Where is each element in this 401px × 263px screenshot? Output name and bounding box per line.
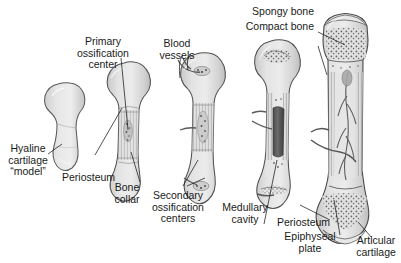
label-primary-ossification-center: Primary ossification center — [69, 36, 137, 71]
stage-5-mature-bone — [311, 14, 369, 245]
medullary-cavity-fill — [273, 107, 284, 157]
label-spongy-bone: Spongy bone — [228, 6, 314, 18]
spongy-bone-stage4 — [263, 49, 291, 63]
spongy-bone-stage5 — [326, 28, 366, 61]
label-compact-bone: Compact bone — [216, 21, 314, 33]
stage-4-medullary-cavity — [252, 40, 300, 209]
secondary-center-proximal — [194, 66, 210, 75]
label-hyaline-cartilage-model: Hyaline cartilage “model” — [4, 143, 52, 178]
label-periosteum-right: Periosteum — [277, 217, 339, 229]
epiphyseal-plate-stage4 — [261, 185, 287, 194]
label-medullary-cavity: Medullary cavity — [218, 202, 272, 225]
label-secondary-ossification-centers: Secondary ossification centers — [147, 190, 209, 225]
label-blood-vessels: Blood vessels — [153, 38, 201, 61]
endochondral-ossification-figure: Primary ossification center Blood vessel… — [0, 0, 401, 263]
label-bone-collar: Bone collar — [109, 182, 145, 205]
label-articular-cartilage: Articular cartilage — [351, 235, 401, 258]
stage-3-vascular-invasion — [178, 53, 225, 204]
label-epiphyseal-plate: Epiphyseal plate — [281, 231, 339, 254]
